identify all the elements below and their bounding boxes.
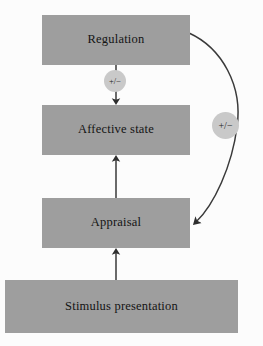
process-diagram: Regulation Affective state Appraisal Sti…	[0, 0, 263, 346]
node-appraisal: Appraisal	[42, 198, 190, 248]
node-appraisal-label: Appraisal	[91, 216, 141, 230]
node-affective-state-label: Affective state	[78, 123, 154, 137]
node-regulation: Regulation	[42, 15, 190, 65]
edge-badge-regulation-affective: +/−	[104, 70, 126, 92]
edge-badge-regulation-appraisal-label: +/−	[218, 120, 232, 131]
edge-badge-regulation-appraisal: +/−	[212, 112, 239, 139]
node-stimulus-presentation-label: Stimulus presentation	[65, 300, 178, 314]
edge-badge-regulation-affective-label: +/−	[109, 76, 121, 86]
node-regulation-label: Regulation	[88, 33, 145, 47]
node-stimulus-presentation: Stimulus presentation	[5, 280, 238, 333]
node-affective-state: Affective state	[42, 105, 190, 155]
